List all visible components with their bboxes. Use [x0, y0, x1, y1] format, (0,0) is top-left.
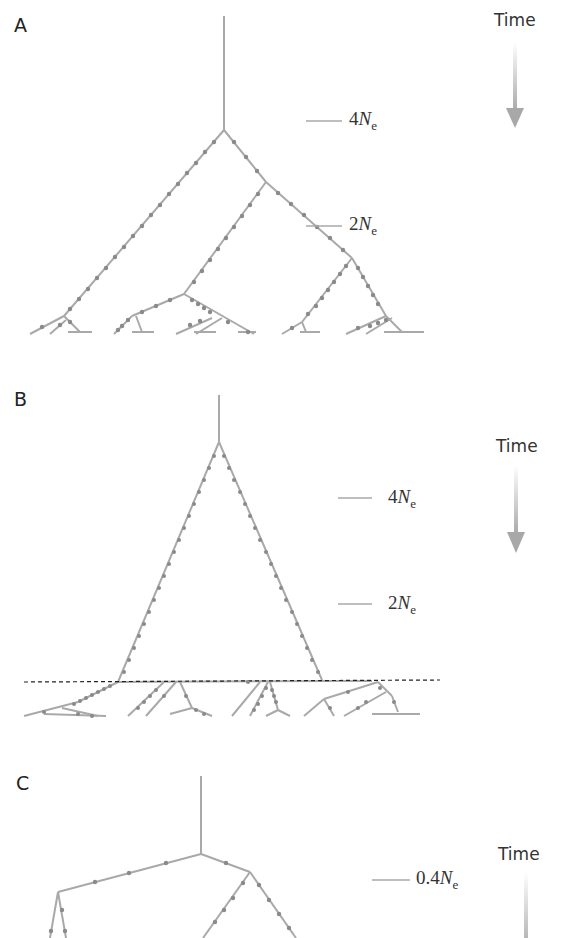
- mutation-dots-c: [49, 861, 291, 933]
- genealogy-tree-a: [0, 0, 578, 340]
- time-arrow-icon: [507, 465, 525, 553]
- tree-branches-a: [30, 16, 424, 334]
- scale-label-2ne-b: 2Ne: [388, 592, 416, 618]
- genealogy-tree-b: [0, 340, 578, 720]
- scale-ticks-b: [338, 498, 372, 604]
- mutation-dots-a: [40, 140, 388, 334]
- scale-ticks-a: [306, 121, 342, 226]
- mutation-dots-b: [42, 454, 396, 718]
- scale-label-4ne-b: 4Ne: [388, 486, 416, 512]
- panel-b: B Time: [0, 340, 578, 720]
- tree-branches-b: [24, 395, 420, 716]
- scale-label-04ne-c: 0.4Ne: [416, 867, 458, 893]
- genealogy-tree-c: [0, 720, 578, 938]
- time-arrow-icon: [506, 42, 524, 128]
- time-arrow-icon: [524, 872, 528, 938]
- panel-a: A Time: [0, 0, 578, 340]
- scale-label-4ne-a: 4Ne: [349, 108, 377, 134]
- tree-branches-c: [50, 776, 296, 938]
- panel-c: C Time 0.4Ne: [0, 720, 578, 938]
- scale-label-2ne-a: 2Ne: [349, 213, 377, 239]
